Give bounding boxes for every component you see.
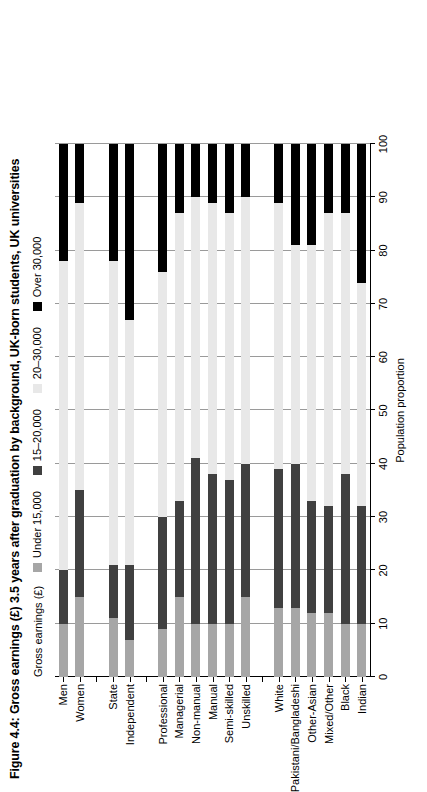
- figure-title: Figure 4.4: Gross earnings (£) 3.5 years…: [8, 159, 22, 779]
- bar-segment: [291, 245, 300, 464]
- bar-segment: [191, 144, 200, 197]
- stacked-bar: [241, 144, 250, 677]
- bar-segment: [291, 608, 300, 677]
- category-tick: [213, 677, 214, 682]
- category-tick: [179, 677, 180, 682]
- legend-label-20-30000: 20–30,000: [32, 327, 43, 379]
- stacked-bar: [191, 144, 200, 677]
- category-tick: [246, 677, 247, 682]
- bar-segment: [59, 624, 68, 677]
- bar-segment: [109, 144, 118, 261]
- x-axis-line: [370, 144, 371, 677]
- category-tick: [329, 677, 330, 682]
- x-tick: [370, 623, 375, 624]
- x-tick-label: 10: [377, 618, 389, 630]
- bar-segment: [241, 144, 250, 197]
- bar-segment: [191, 624, 200, 677]
- stacked-bar: [208, 144, 217, 677]
- bar-segment: [225, 480, 234, 624]
- category-label: Managerial: [174, 684, 185, 738]
- stacked-bar: [125, 144, 134, 677]
- bar-segment: [241, 597, 250, 677]
- bar-segment: [324, 144, 333, 213]
- category-label: Non-manual: [190, 684, 201, 744]
- legend-swatch-15-20000: [33, 466, 42, 475]
- x-tick-label: 20: [377, 564, 389, 576]
- category-tick: [196, 677, 197, 682]
- bar-segment: [109, 261, 118, 565]
- bar-segment: [208, 144, 217, 203]
- x-tick: [370, 463, 375, 464]
- x-tick: [370, 196, 375, 197]
- x-tick-label: 100: [377, 135, 389, 153]
- category-tick: [113, 677, 114, 682]
- bar-segment: [125, 565, 134, 640]
- legend-label-under-15000: Under 15,000: [32, 491, 43, 558]
- category-label: State: [108, 684, 119, 710]
- bar-segment: [175, 501, 184, 597]
- legend-item-15-20000: 15–20,000: [32, 409, 43, 475]
- bar-segment: [307, 144, 316, 245]
- x-axis-title: Population proportion: [394, 144, 406, 677]
- bar-segment: [357, 144, 366, 283]
- category-label: Mixed/Other: [323, 684, 334, 744]
- bar-segment: [274, 608, 283, 677]
- bar-segment: [175, 597, 184, 677]
- stacked-bar: [357, 144, 366, 677]
- bar-segment: [225, 144, 234, 213]
- bar-segment: [324, 613, 333, 677]
- bar-segment: [175, 213, 184, 501]
- category-tick: [63, 677, 64, 682]
- bar-segment: [225, 624, 234, 677]
- category-tick: [229, 677, 230, 682]
- legend-item-20-30000: 20–30,000: [32, 327, 43, 393]
- category-tick: [163, 677, 164, 682]
- bar-segment: [208, 474, 217, 623]
- bar-segment: [274, 144, 283, 203]
- legend-swatch-under-15000: [33, 563, 42, 572]
- legend-swatch-20-30000: [33, 384, 42, 393]
- bar-segment: [59, 570, 68, 623]
- category-label: Indian: [356, 684, 367, 714]
- x-tick: [370, 143, 375, 144]
- stacked-bar: [225, 144, 234, 677]
- bar-segment: [341, 144, 350, 213]
- x-tick: [370, 516, 375, 517]
- x-tick-label: 30: [377, 511, 389, 523]
- x-tick: [370, 410, 375, 411]
- x-tick-label: 0: [377, 674, 389, 680]
- stacked-bar: [274, 144, 283, 677]
- bar-segment: [75, 490, 84, 597]
- bar-segment: [158, 517, 167, 629]
- category-label: Women: [74, 684, 85, 722]
- stacked-bar: [75, 144, 84, 677]
- bar-segment: [241, 197, 250, 464]
- legend-item-over-30000: Over 30,000: [32, 237, 43, 312]
- stacked-bar: [341, 144, 350, 677]
- stacked-bar: [324, 144, 333, 677]
- stacked-bar: [109, 144, 118, 677]
- bar-segment: [307, 501, 316, 613]
- bar-segment: [291, 464, 300, 608]
- bar-segment: [341, 624, 350, 677]
- bar-segment: [75, 144, 84, 203]
- category-tick: [312, 677, 313, 682]
- x-tick: [370, 676, 375, 677]
- stacked-bar: [307, 144, 316, 677]
- bar-segment: [191, 458, 200, 623]
- x-tick: [370, 303, 375, 304]
- category-tick: [96, 677, 97, 682]
- bar-segment: [307, 613, 316, 677]
- category-label: Independent: [124, 684, 135, 745]
- x-tick: [370, 250, 375, 251]
- legend-swatch-over-30000: [33, 302, 42, 311]
- bar-segment: [109, 618, 118, 677]
- category-tick: [362, 677, 363, 682]
- legend-item-under-15000: Under 15,000: [32, 491, 43, 572]
- category-label: Semi-skilled: [224, 684, 235, 743]
- bar-segment: [341, 474, 350, 623]
- x-tick-label: 60: [377, 351, 389, 363]
- category-label: Professional: [157, 684, 168, 745]
- bar-segment: [241, 464, 250, 597]
- bar-segment: [59, 261, 68, 570]
